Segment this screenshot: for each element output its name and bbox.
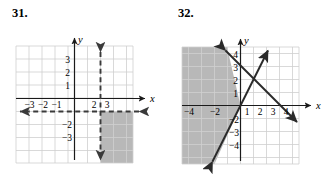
problem-32-panel: 32.	[165, 0, 330, 178]
x-tick-label-32-0: −4	[184, 107, 194, 117]
x-tick-label-32-4: 3	[271, 107, 276, 117]
x-tick-label-32-5: 4	[284, 107, 289, 117]
problem-31-panel: 31.	[0, 0, 165, 178]
x-tick-label-32-1: −2	[210, 107, 220, 117]
y-tick-label-32-0: 4	[233, 50, 238, 60]
y-tick-label-32-5: −3	[229, 128, 239, 138]
y-axis-label-31: y	[77, 34, 83, 45]
y-tick-label-32-2: 2	[233, 76, 238, 86]
y-tick-label-32-1: 3	[233, 63, 238, 73]
x-tick-label-32-3: 2	[258, 107, 263, 117]
y-tick-label-32-3: 1	[233, 89, 238, 99]
x-tick-label-31-0: −3	[24, 100, 34, 110]
x-tick-label-31-3: 2	[92, 100, 97, 110]
x-axis-label-32: x	[315, 100, 321, 111]
y-axis-label-32: y	[243, 35, 249, 46]
y-tick-label-31-1: 2	[65, 68, 70, 78]
x-tick-label-31-4: 3	[105, 100, 110, 110]
graph-31: x y −3 −2 −1 2 3 3 2 1 −2 −3	[0, 0, 165, 178]
y-tick-label-32-6: −4	[229, 141, 239, 151]
graph-32: x y −4 −2 1 2 3 4 4 3 2 1 −2 −3 −4	[165, 0, 330, 178]
x-axis-label-31: x	[149, 93, 155, 104]
y-tick-label-31-3: −2	[62, 120, 72, 130]
y-tick-label-31-0: 3	[65, 55, 70, 65]
x-tick-label-32-2: 1	[245, 107, 250, 117]
y-tick-label-31-2: 1	[65, 81, 70, 91]
x-tick-label-31-1: −2	[38, 100, 48, 110]
x-tick-label-31-2: −1	[51, 100, 61, 110]
y-tick-label-32-4: −2	[229, 115, 239, 125]
y-tick-label-31-4: −3	[62, 133, 72, 143]
